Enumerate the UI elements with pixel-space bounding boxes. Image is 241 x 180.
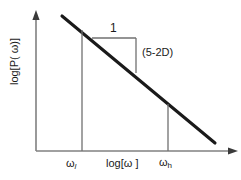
power-law-line: [62, 16, 215, 143]
power-spectrum-figure: log[P( ω)] log[ω ] ωl ωh 1 (5-2D): [0, 0, 241, 180]
plot-area: [0, 0, 241, 180]
omega-high-subscript: h: [168, 161, 172, 170]
y-axis-arrowhead: [32, 10, 39, 20]
omega-low-subscript: l: [75, 162, 77, 171]
y-axis-label: log[P( ω)]: [9, 20, 20, 104]
x-axis-label: log[ω ]: [106, 158, 138, 169]
slope-run-label: 1: [110, 22, 117, 34]
omega-high-symbol: ω: [159, 156, 168, 168]
omega-high-label: ωh: [159, 157, 172, 170]
slope-rise-label: (5-2D): [142, 47, 173, 58]
x-axis-arrowhead: [228, 147, 238, 154]
omega-low-label: ωl: [66, 158, 76, 171]
omega-low-symbol: ω: [66, 157, 75, 169]
